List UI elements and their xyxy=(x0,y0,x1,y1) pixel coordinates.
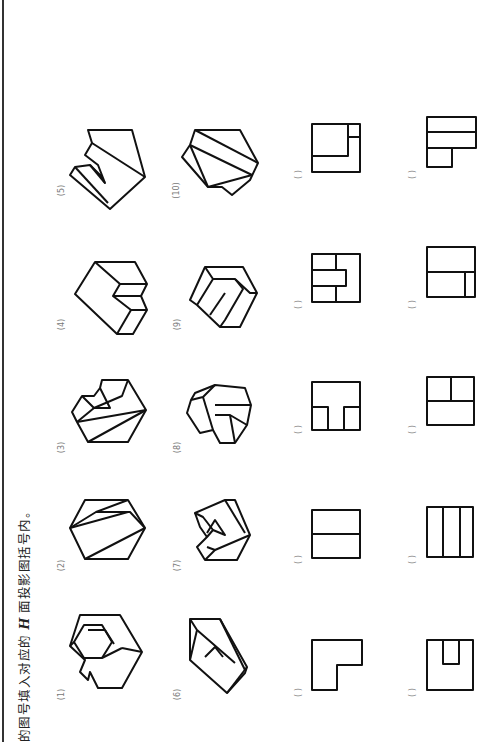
projection-view-8 xyxy=(425,375,480,430)
projection-view-5 xyxy=(310,122,365,177)
answer-blank-5[interactable]: ( ) xyxy=(294,170,303,179)
isometric-figure-1 xyxy=(60,610,150,700)
projection-view-4 xyxy=(310,252,365,307)
answer-blank-3[interactable]: ( ) xyxy=(294,425,303,434)
page-edge-line xyxy=(2,0,4,742)
figure-label-7: (7) xyxy=(173,560,182,571)
isometric-figure-10 xyxy=(180,125,260,205)
projection-view-2 xyxy=(310,508,365,563)
projection-view-3 xyxy=(310,380,365,435)
figure-label-6: (6) xyxy=(173,689,182,700)
figure-label-5: (5) xyxy=(57,185,66,196)
isometric-figure-4 xyxy=(75,262,150,342)
figure-label-3: (3) xyxy=(57,442,66,453)
figure-label-9: (9) xyxy=(173,319,182,330)
isometric-figure-5 xyxy=(70,125,150,215)
isometric-figure-8 xyxy=(185,385,260,455)
figure-label-8: (8) xyxy=(173,442,182,453)
isometric-figure-3 xyxy=(72,380,152,450)
projection-view-1 xyxy=(310,638,365,693)
figure-label-2: (2) xyxy=(57,560,66,571)
answer-blank-9[interactable]: ( ) xyxy=(408,300,417,309)
answer-blank-8[interactable]: ( ) xyxy=(408,425,417,434)
instruction-suffix: 面投影图括号内。 xyxy=(17,505,32,617)
answer-blank-6[interactable]: ( ) xyxy=(408,688,417,697)
instruction-h-symbol: H xyxy=(17,617,32,629)
instruction-text: 的图号填入对应的 H 面投影图括号内。 xyxy=(14,505,33,742)
isometric-figure-7 xyxy=(185,495,260,570)
isometric-figure-9 xyxy=(185,265,260,337)
figure-label-4: (4) xyxy=(57,319,66,330)
isometric-figure-2 xyxy=(70,495,150,570)
answer-blank-4[interactable]: ( ) xyxy=(294,300,303,309)
projection-view-7 xyxy=(425,505,480,560)
instruction-prefix: 的图号填入对应的 xyxy=(17,630,32,742)
answer-blank-1[interactable]: ( ) xyxy=(294,688,303,697)
projection-view-9 xyxy=(425,245,480,300)
answer-blank-2[interactable]: ( ) xyxy=(294,555,303,564)
answer-blank-10[interactable]: ( ) xyxy=(408,170,417,179)
projection-view-6 xyxy=(425,638,480,693)
isometric-figure-6 xyxy=(185,615,265,700)
answer-blank-7[interactable]: ( ) xyxy=(408,555,417,564)
projection-view-10 xyxy=(425,115,480,170)
